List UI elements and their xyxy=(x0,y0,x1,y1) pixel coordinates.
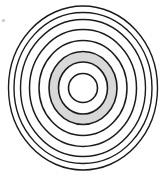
figure-background xyxy=(0,0,165,177)
artifact-group xyxy=(2,19,6,22)
speck-artifact xyxy=(2,19,6,22)
concentric-circles-figure xyxy=(0,0,165,177)
concentric-circles-diagram xyxy=(0,0,165,177)
